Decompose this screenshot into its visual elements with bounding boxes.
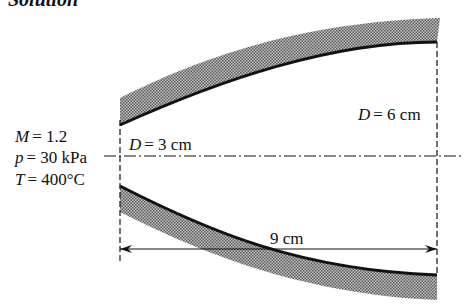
inlet-conditions: M= 1.2 p= 30 kPa T= 400°C <box>14 127 88 189</box>
pressure-label: p= 30 kPa <box>14 148 88 167</box>
nozzle-diagram: Solution 9 cm M= 1.2 p= 30 kPa T= 400°C … <box>0 0 464 304</box>
inlet-diameter-label: D= 3 cm <box>128 135 192 154</box>
temperature-label: T= 400°C <box>15 170 85 189</box>
solution-heading: Solution <box>8 0 78 10</box>
outlet-diameter-label: D= 6 cm <box>357 105 421 124</box>
length-label: 9 cm <box>270 229 304 248</box>
mach-number-label: M= 1.2 <box>14 127 67 146</box>
